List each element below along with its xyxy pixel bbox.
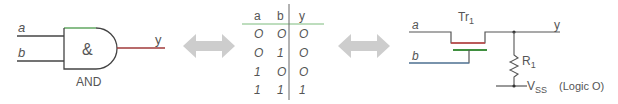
supply-label: VSS	[527, 79, 547, 95]
svg-text:a: a	[412, 18, 419, 32]
svg-text:b: b	[412, 49, 419, 63]
svg-text:1: 1	[254, 65, 261, 79]
gate-name: AND	[76, 75, 102, 89]
svg-text:O: O	[254, 46, 263, 60]
svg-text:O: O	[277, 65, 286, 79]
double-arrow-icon	[183, 34, 235, 58]
gate-output-label: y	[155, 32, 162, 47]
svg-text:1: 1	[277, 46, 284, 60]
svg-text:O: O	[277, 27, 286, 41]
double-arrow-icon	[338, 34, 390, 58]
svg-text:O: O	[299, 65, 308, 79]
svg-text:O: O	[254, 27, 263, 41]
and-symbol: &	[82, 41, 93, 58]
svg-text:1: 1	[299, 83, 306, 97]
svg-text:y: y	[554, 18, 560, 32]
and-gate: a b y & AND	[17, 20, 165, 89]
svg-text:b: b	[277, 9, 284, 23]
resistor-label: R1	[522, 54, 536, 70]
gate-input-b-label: b	[18, 45, 25, 60]
svg-text:1: 1	[254, 83, 261, 97]
svg-text:O: O	[299, 46, 308, 60]
svg-text:1: 1	[277, 83, 284, 97]
diagram-canvas: a b y & AND a b y O O O O 1 O 1 O O 1 1 …	[0, 0, 618, 104]
gate-input-a-label: a	[18, 20, 25, 35]
svg-text:a: a	[254, 9, 261, 23]
transistor-circuit: a b y Tr1 R1 VSS (Logic O)	[409, 10, 604, 95]
supply-note: (Logic O)	[559, 80, 604, 92]
svg-text:y: y	[299, 9, 305, 23]
transistor-label: Tr1	[458, 10, 474, 26]
truth-table: a b y O O O O 1 O 1 O O 1 1 1	[242, 4, 324, 100]
svg-text:O: O	[299, 27, 308, 41]
